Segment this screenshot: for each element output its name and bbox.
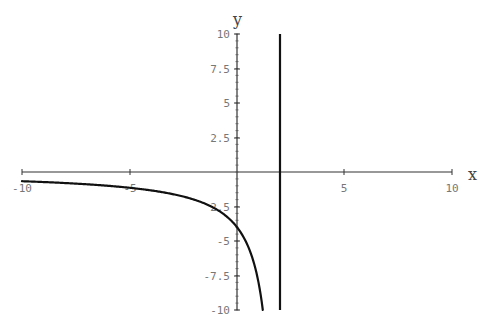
y-tick-label: -7.5 xyxy=(204,270,231,283)
y-tick-label: 5 xyxy=(223,97,230,110)
plot-canvas: -10 -5 5 10 x 10 7.5 5 2.5 2.5 -5 -7.5 -… xyxy=(0,0,490,332)
y-axis: 10 7.5 5 2.5 2.5 -5 -7.5 -10 y xyxy=(204,10,243,317)
y-tick-label: 7.5 xyxy=(210,63,230,76)
x-axis: -10 -5 5 10 x xyxy=(12,165,477,195)
x-tick-label: -10 xyxy=(12,182,32,195)
y-tick-label: -10 xyxy=(210,304,230,317)
y-tick-label: 2.5 xyxy=(210,132,230,145)
y-axis-title: y xyxy=(232,10,242,29)
y-tick-label: -5 xyxy=(217,235,230,248)
x-tick-label: 5 xyxy=(341,182,348,195)
x-axis-title: x xyxy=(468,165,477,184)
x-tick-label: 10 xyxy=(445,182,458,195)
y-tick-label: 10 xyxy=(217,28,230,41)
